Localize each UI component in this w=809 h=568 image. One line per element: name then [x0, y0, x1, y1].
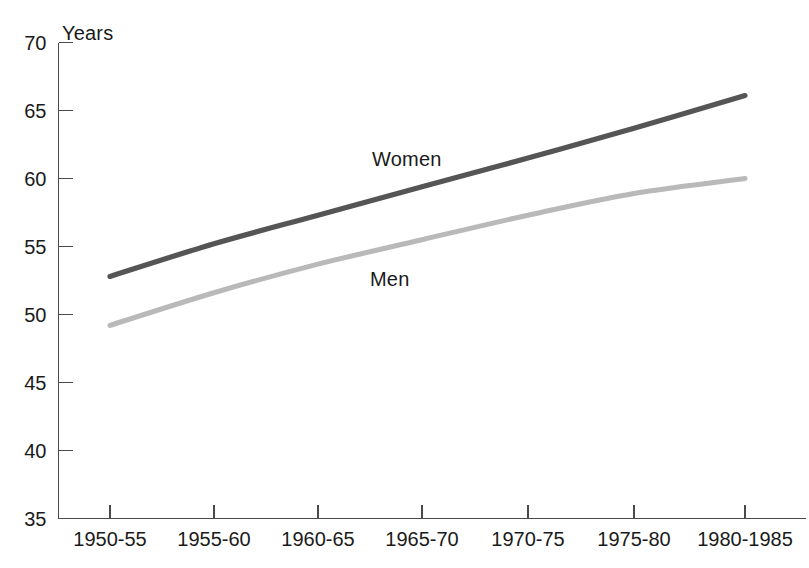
y-axis-tick-label: 65 [24, 100, 46, 122]
y-axis-tick-label: 70 [24, 32, 46, 54]
x-axis-tick-label: 1965-70 [385, 528, 458, 550]
y-axis: 3540455055606570 [24, 32, 72, 530]
series-line-men [110, 179, 745, 326]
y-axis-tick-label: 50 [24, 304, 46, 326]
y-axis-tick-label: 35 [24, 508, 46, 530]
data-series-group [110, 96, 745, 326]
line-chart-plot: 3540455055606570 1950-551955-601960-6519… [0, 0, 809, 568]
x-axis-tick-label: 1960-65 [281, 528, 354, 550]
x-axis-tick-label: 1980-1985 [697, 528, 793, 550]
x-axis-tick-label: 1970-75 [491, 528, 564, 550]
x-axis-tick-label: 1950-55 [73, 528, 146, 550]
y-axis-tick-label: 45 [24, 372, 46, 394]
y-axis-tick-label: 40 [24, 440, 46, 462]
x-axis-tick-label: 1975-80 [597, 528, 670, 550]
series-line-women [110, 96, 745, 277]
x-axis-tick-label: 1955-60 [177, 528, 250, 550]
y-axis-tick-label: 60 [24, 168, 46, 190]
chart-container: Years Women Men 3540455055606570 1950-55… [0, 0, 809, 568]
x-axis: 1950-551955-601960-651965-701970-751975-… [59, 505, 807, 550]
y-axis-tick-label: 55 [24, 236, 46, 258]
